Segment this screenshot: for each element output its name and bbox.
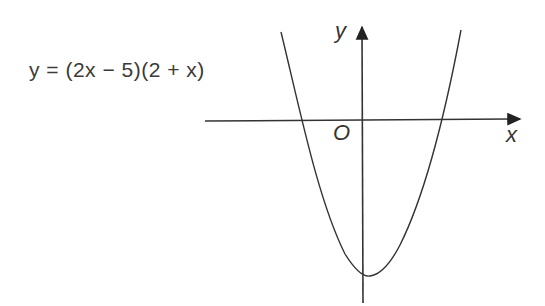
x-axis-label: x bbox=[506, 122, 517, 148]
graph-svg bbox=[0, 0, 545, 306]
diagram-canvas: y = (2x − 5)(2 + x) y x O bbox=[0, 0, 545, 306]
y-axis bbox=[362, 27, 363, 303]
origin-label: O bbox=[333, 120, 350, 146]
y-axis-label: y bbox=[335, 18, 346, 44]
parabola-curve bbox=[281, 30, 461, 276]
equation-label: y = (2x − 5)(2 + x) bbox=[29, 58, 205, 82]
